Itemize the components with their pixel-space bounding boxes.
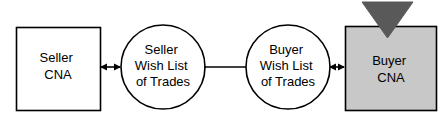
arrowhead-right-icon [338,63,345,70]
node-seller-wish-list-label-line1: Seller [145,42,179,57]
diagram-canvas: Seller CNA Seller Wish List of Trades Bu… [0,0,445,122]
arrowhead-right-icon [114,63,121,70]
node-seller-cna-label-line1: Seller [40,50,74,65]
node-buyer-wish-list-label-line1: Buyer [269,42,304,57]
node-seller-wish-list-label-line2: Wish List [135,58,188,73]
diagram-svg: Seller CNA Seller Wish List of Trades Bu… [0,0,445,122]
connector-seller-cna-to-seller-wish-list[interactable] [100,63,121,70]
node-buyer-cna-label-line1: Buyer [372,53,407,68]
node-seller-wish-list-label-line3: of Trades [136,74,191,89]
node-buyer-wish-list-label-line2: Wish List [260,58,313,73]
node-buyer-wish-list-label-line3: of Trades [261,74,316,89]
node-buyer-cna-shape[interactable] [346,27,437,111]
node-seller-cna-label-line2: CNA [44,67,72,82]
node-buyer-cna-label-line2: CNA [377,70,405,85]
connector-buyer-wish-list-to-buyer-cna[interactable] [329,63,345,70]
